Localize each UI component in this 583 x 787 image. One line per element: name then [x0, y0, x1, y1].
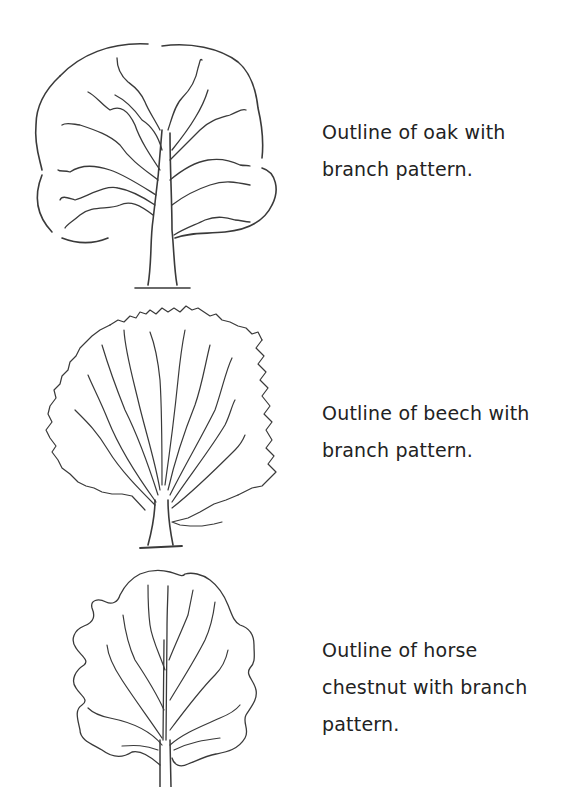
beech-caption: Outline of beech with branch pattern.: [322, 395, 530, 469]
horse-chestnut-caption-line-2: chestnut with branch: [322, 669, 528, 706]
beech-caption-line-1: Outline of beech with: [322, 395, 530, 432]
oak-caption-line-1: Outline of oak with: [322, 114, 506, 151]
horse-chestnut-caption-line-1: Outline of horse: [322, 632, 528, 669]
beech-caption-line-2: branch pattern.: [322, 432, 530, 469]
oak-caption-line-2: branch pattern.: [322, 151, 506, 188]
horse-chestnut-tree-illustration: [40, 560, 300, 787]
horse-chestnut-caption: Outline of horse chestnut with branch pa…: [322, 632, 528, 743]
oak-caption: Outline of oak with branch pattern.: [322, 114, 506, 188]
beech-tree-illustration: [0, 290, 300, 560]
horse-chestnut-caption-line-3: pattern.: [322, 706, 528, 743]
oak-tree-illustration: [0, 0, 300, 300]
